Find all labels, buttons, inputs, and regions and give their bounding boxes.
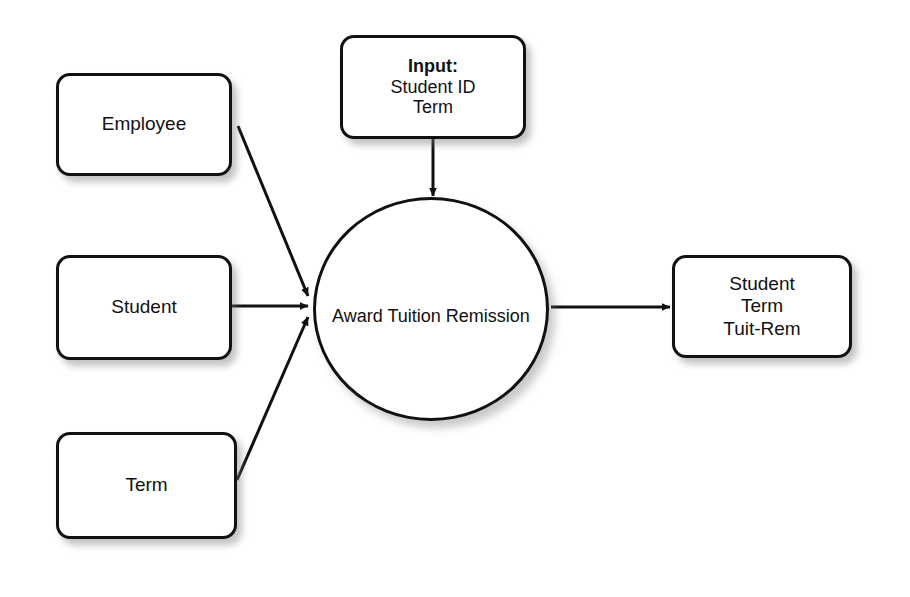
diagram-canvas: Employee Student Term Input: Student ID …: [0, 0, 910, 597]
node-process-line-1: Award: [332, 306, 383, 326]
edge-employee-to-process: [238, 126, 308, 296]
node-process-line-2: Tuition: [387, 306, 440, 326]
edge-term-to-process: [237, 317, 308, 480]
node-output-text: Student Term Tuit-Rem: [717, 273, 806, 339]
node-employee-label: Employee: [96, 113, 193, 135]
node-student-label: Student: [105, 296, 183, 318]
node-input-line-2: Term: [390, 97, 475, 118]
node-process-text: Award Tuition Remission: [332, 290, 530, 328]
node-output[interactable]: Student Term Tuit-Rem: [672, 255, 852, 358]
node-output-line-1: Student: [723, 273, 800, 295]
node-process-award-tuition-remission[interactable]: Award Tuition Remission: [313, 197, 549, 421]
node-term-label: Term: [119, 474, 173, 496]
node-input[interactable]: Input: Student ID Term: [340, 35, 526, 139]
node-employee[interactable]: Employee: [56, 73, 232, 176]
node-input-text: Input: Student ID Term: [384, 56, 481, 119]
node-process-line-3: Remission: [446, 306, 530, 326]
node-student[interactable]: Student: [56, 255, 232, 360]
node-output-line-3: Tuit-Rem: [723, 318, 800, 340]
node-input-line-1: Student ID: [390, 77, 475, 98]
node-term[interactable]: Term: [56, 432, 237, 539]
node-output-line-2: Term: [723, 295, 800, 317]
node-input-heading: Input:: [390, 56, 475, 77]
